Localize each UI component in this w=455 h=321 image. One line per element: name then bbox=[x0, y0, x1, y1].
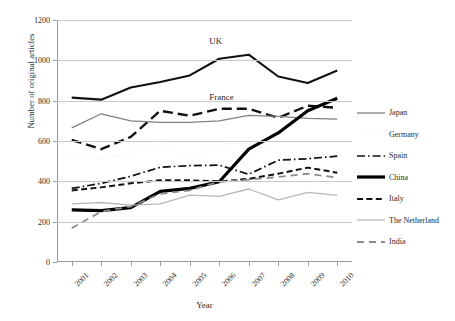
x-tick bbox=[72, 262, 73, 266]
x-tick bbox=[308, 262, 309, 266]
x-tick bbox=[337, 262, 338, 266]
legend-item-germany[interactable]: Germany bbox=[356, 124, 455, 146]
series-line-china bbox=[72, 98, 338, 210]
legend-item-india[interactable]: India bbox=[356, 231, 455, 253]
legend-item-spain[interactable]: Spain bbox=[356, 145, 455, 167]
x-tick bbox=[101, 262, 102, 266]
series-line-italy bbox=[72, 168, 338, 191]
legend-item-the-netherland[interactable]: The Netherland bbox=[356, 210, 455, 232]
x-tick-label: 2009 bbox=[309, 271, 327, 289]
gridline bbox=[57, 20, 352, 21]
series-line-japan bbox=[72, 114, 338, 128]
y-axis-title: Number of original articles bbox=[26, 6, 36, 156]
legend-label: Germany bbox=[389, 130, 419, 139]
dash-dot-line-icon bbox=[356, 151, 386, 161]
x-tick-label: 2004 bbox=[161, 271, 179, 289]
y-tick-label: 400 bbox=[38, 177, 50, 186]
y-tick-label: 1200 bbox=[34, 16, 50, 25]
legend: JapanGermanySpainChinaItalyThe Netherlan… bbox=[356, 102, 455, 253]
x-tick-label: 2003 bbox=[132, 271, 150, 289]
legend-label: Italy bbox=[389, 194, 404, 203]
dotted-line-icon bbox=[356, 129, 386, 139]
y-tick bbox=[53, 222, 57, 223]
legend-label: India bbox=[389, 237, 405, 246]
gridline bbox=[57, 222, 352, 223]
series-line-france bbox=[72, 106, 338, 149]
legend-label: Japan bbox=[389, 108, 407, 117]
solid-gray-line-icon bbox=[356, 108, 386, 118]
legend-label: China bbox=[389, 173, 408, 182]
series-annotation-france: France bbox=[209, 92, 234, 102]
x-tick-label: 2007 bbox=[250, 271, 268, 289]
legend-label: The Netherland bbox=[389, 216, 439, 225]
y-tick-label: 1000 bbox=[34, 56, 50, 65]
x-tick-label: 2001 bbox=[73, 271, 91, 289]
y-tick-label: 800 bbox=[38, 96, 50, 105]
gridline bbox=[57, 181, 352, 182]
gridline bbox=[57, 60, 352, 61]
x-tick bbox=[131, 262, 132, 266]
x-tick-label: 2005 bbox=[191, 271, 209, 289]
x-tick-label: 2002 bbox=[102, 271, 120, 289]
series-line-uk bbox=[72, 55, 338, 100]
x-tick bbox=[160, 262, 161, 266]
x-tick bbox=[190, 262, 191, 266]
x-tick bbox=[219, 262, 220, 266]
y-tick bbox=[53, 141, 57, 142]
gridline bbox=[57, 141, 352, 142]
y-tick bbox=[53, 262, 57, 263]
line-chart: Number of original articles 020040060080… bbox=[0, 0, 455, 321]
legend-label: Spain bbox=[389, 151, 407, 160]
y-tick-label: 200 bbox=[38, 217, 50, 226]
x-axis-title: Year bbox=[57, 300, 352, 310]
y-tick bbox=[53, 101, 57, 102]
x-tick-label: 2010 bbox=[338, 271, 356, 289]
series-annotation-uk: UK bbox=[209, 36, 222, 46]
y-tick bbox=[53, 20, 57, 21]
series-line-germany bbox=[72, 141, 338, 159]
thick-solid-line-icon bbox=[356, 172, 386, 182]
gridline bbox=[57, 101, 352, 102]
y-tick-label: 600 bbox=[38, 137, 50, 146]
x-tick-label: 2006 bbox=[220, 271, 238, 289]
dashed-line-icon bbox=[356, 194, 386, 204]
legend-item-japan[interactable]: Japan bbox=[356, 102, 455, 124]
y-tick-label: 0 bbox=[46, 258, 50, 267]
y-tick bbox=[53, 181, 57, 182]
series-line-the-netherland bbox=[72, 189, 338, 205]
long-dash-gray-line-icon bbox=[356, 237, 386, 247]
legend-item-italy[interactable]: Italy bbox=[356, 188, 455, 210]
plot-area: 0200400600800100012002001200220032004200… bbox=[57, 20, 352, 262]
x-tick-label: 2008 bbox=[279, 271, 297, 289]
y-tick bbox=[53, 60, 57, 61]
solid-lightgray-line-icon bbox=[356, 215, 386, 225]
legend-item-china[interactable]: China bbox=[356, 167, 455, 189]
x-tick bbox=[278, 262, 279, 266]
x-tick bbox=[249, 262, 250, 266]
